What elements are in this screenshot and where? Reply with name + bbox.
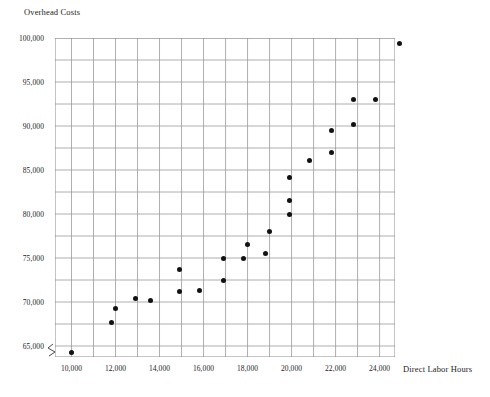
x-axis-title: Direct Labor Hours bbox=[403, 364, 472, 374]
x-axis-tick-label: 20,000 bbox=[281, 364, 302, 373]
x-axis-tick-labels: 10,00012,00014,00016,00018,00020,00022,0… bbox=[0, 0, 490, 397]
x-axis-tick-label: 14,000 bbox=[149, 364, 170, 373]
scatter-chart: Overhead Costs 100,00095,00090,00085,000… bbox=[0, 0, 490, 397]
axis-break-icon bbox=[44, 342, 62, 364]
x-axis-tick-label: 12,000 bbox=[105, 364, 126, 373]
x-axis-tick-label: 10,000 bbox=[61, 364, 82, 373]
x-axis-tick-label: 24,000 bbox=[369, 364, 390, 373]
x-axis-tick-label: 16,000 bbox=[193, 364, 214, 373]
x-axis-tick-label: 18,000 bbox=[237, 364, 258, 373]
x-axis-tick-label: 22,000 bbox=[325, 364, 346, 373]
